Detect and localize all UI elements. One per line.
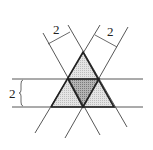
- left-strip-width-label: 2: [53, 22, 60, 37]
- brace-icon: [19, 80, 23, 106]
- strip-diagram: 2 2 2: [0, 0, 153, 150]
- top-triangle: [68, 52, 99, 79]
- dim-right-line: [95, 35, 117, 47]
- right-strip-width-label: 2: [107, 24, 114, 39]
- horizontal-strip-width-label: 2: [9, 86, 16, 101]
